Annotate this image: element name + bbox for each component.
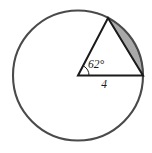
geometry-canvas: 62° 4 (0, 0, 152, 153)
geometry-figure: 62° 4 (0, 0, 152, 153)
side-length-label: 4 (101, 78, 107, 90)
angle-label: 62° (88, 58, 105, 70)
